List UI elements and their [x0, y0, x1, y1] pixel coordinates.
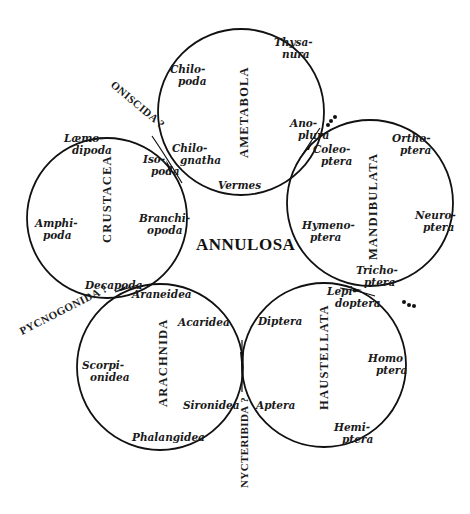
label-mandibulata-1: Coleo-ptera	[313, 143, 352, 167]
label-crustacea-3: Branchi-opoda	[138, 212, 190, 236]
label-mandibulata-4: Tricho-ptera	[356, 264, 398, 288]
group-name-haustellata: HAUSTELLATA	[317, 304, 331, 410]
annulosa-diagram: AMETABOLA MANDIBULATA HAUSTELLATA ARACHN…	[0, 0, 470, 514]
label-mandibulata-2: Neuro-ptera	[414, 209, 456, 233]
label-crustacea-2: Amphi-poda	[34, 217, 78, 241]
label-ametabola-3: Chilo-gnatha	[172, 142, 221, 166]
label-mandibulata-3: Hymeno-ptera	[301, 219, 355, 243]
label-mandibulata-0: Ortho-ptera	[392, 132, 431, 156]
label-crustacea-1: Iso-poda	[142, 153, 180, 177]
center-title: ANNULOSA	[196, 235, 296, 254]
label-haustellata-0: Lepi-doptera	[326, 285, 381, 309]
group-name-ametabola: AMETABOLA	[237, 66, 251, 158]
side-label-nycteribida: NYCTERIBIDA ?	[238, 397, 250, 488]
group-name-crustacea: CRUSTACEA	[100, 155, 114, 243]
label-haustellata-3: Aptera	[255, 399, 296, 411]
label-arachnida-4: Phalangidea	[131, 431, 205, 443]
dots-coleoptera	[326, 115, 337, 127]
group-name-arachnida: ARACHNIDA	[156, 318, 170, 407]
label-haustellata-2: Homoptera	[367, 352, 407, 376]
label-haustellata-1: Diptera	[257, 315, 302, 327]
group-name-mandibulata: MANDIBULATA	[366, 153, 380, 260]
label-ametabola-4: Vermes	[218, 179, 261, 191]
label-arachnida-1: Acaridea	[177, 316, 230, 328]
label-haustellata-4: Hemi-ptera	[333, 421, 373, 445]
label-ametabola-1: Chilo-poda	[170, 63, 207, 87]
label-crustacea-4: Decapoda	[84, 279, 143, 291]
label-crustacea-0: Læmo-dipoda	[63, 132, 112, 156]
label-arachnida-2: Scorpi-onidea	[82, 359, 130, 383]
label-ametabola-0: Thysa-nura	[274, 36, 313, 60]
label-arachnida-3: Sironidea	[183, 399, 240, 411]
dots-lepidoptera	[402, 300, 416, 308]
